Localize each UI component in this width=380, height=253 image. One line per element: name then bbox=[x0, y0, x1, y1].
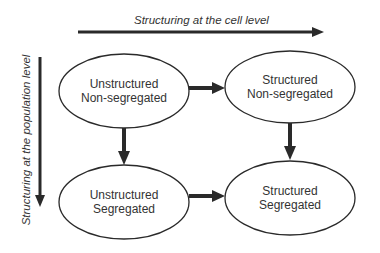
node-label-line: Segregated bbox=[225, 198, 355, 212]
node-label-tl: Unstructured Non-segregated bbox=[59, 77, 189, 105]
node-label-line: Unstructured bbox=[59, 77, 189, 91]
edge-tr-to-br-arrow bbox=[284, 123, 296, 160]
node-label-line: Structured bbox=[225, 73, 355, 87]
node-label-line: Segregated bbox=[59, 202, 189, 216]
node-label-br: Structured Segregated bbox=[225, 184, 355, 212]
horizontal-axis-arrow bbox=[78, 27, 324, 37]
node-label-line: Unstructured bbox=[59, 188, 189, 202]
node-label-bl: Unstructured Segregated bbox=[59, 188, 189, 216]
vertical-axis-label: Structuring at the population level bbox=[20, 55, 32, 226]
edge-tl-to-tr-arrow bbox=[189, 82, 225, 94]
horizontal-axis-label: Structuring at the cell level bbox=[134, 14, 269, 26]
node-label-line: Non-segregated bbox=[225, 87, 355, 101]
node-label-line: Structured bbox=[225, 184, 355, 198]
edge-bl-to-br-arrow bbox=[189, 190, 225, 202]
edge-tl-to-bl-arrow bbox=[118, 128, 130, 165]
node-label-tr: Structured Non-segregated bbox=[225, 73, 355, 101]
node-label-line: Non-segregated bbox=[59, 91, 189, 105]
diagram-canvas bbox=[0, 0, 380, 253]
vertical-axis-arrow bbox=[35, 57, 45, 207]
